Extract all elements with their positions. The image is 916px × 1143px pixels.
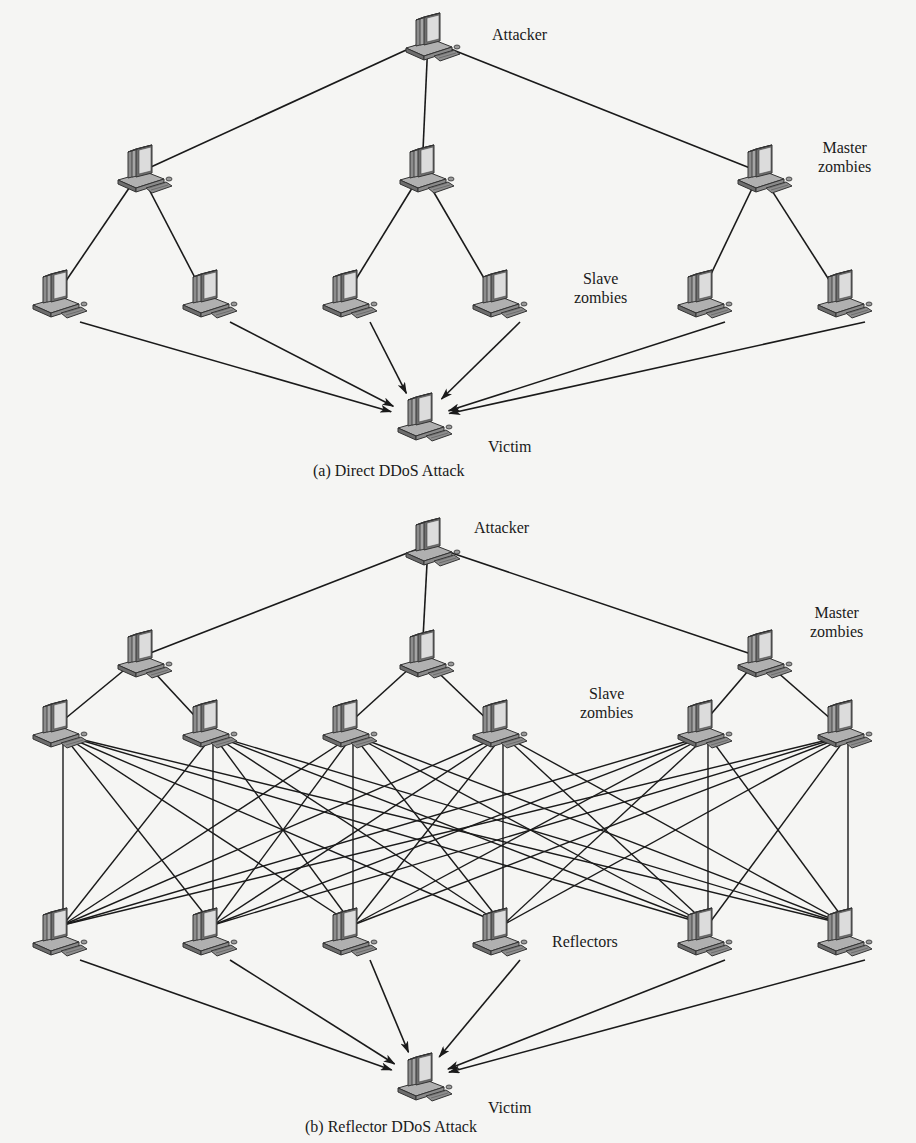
label-attacker-b: Attacker xyxy=(474,518,529,537)
reflector-computer-icon xyxy=(323,908,377,956)
reflected-traffic-arrow xyxy=(80,960,392,1070)
caption-reflector-ddos: (b) Reflector DDoS Attack xyxy=(305,1118,477,1136)
slave-zombie-computer-icon xyxy=(33,270,87,318)
label-master-zombies-b: Master zombies xyxy=(810,603,863,641)
slave-zombie-computer-icon xyxy=(678,270,732,318)
attack-traffic-arrow xyxy=(441,322,520,399)
reflected-traffic-arrow xyxy=(449,960,865,1072)
slave-zombie-computer-icon xyxy=(678,700,732,748)
slave-zombie-computer-icon xyxy=(473,270,527,318)
caption-direct-ddos: (a) Direct DDoS Attack xyxy=(313,462,465,480)
label-victim-b: Victim xyxy=(488,1098,531,1117)
slave-zombie-computer-icon xyxy=(323,270,377,318)
master-zombie-computer-icon xyxy=(118,145,172,193)
label-attacker-a: Attacker xyxy=(492,25,547,44)
reflector-computer-icon xyxy=(678,908,732,956)
reflected-traffic-arrow xyxy=(439,960,520,1057)
master-zombie-computer-icon xyxy=(118,630,172,678)
master-zombie-computer-icon xyxy=(738,630,792,678)
slave-zombie-computer-icon xyxy=(183,700,237,748)
label-reflectors-b: Reflectors xyxy=(552,932,618,951)
reflected-traffic-arrow xyxy=(230,960,395,1064)
computer-nodes xyxy=(33,13,872,1101)
reflected-traffic-arrow xyxy=(448,960,725,1069)
ddos-figure: Attacker Master zombies Slave zombies Vi… xyxy=(0,0,916,1143)
attack-traffic-arrow xyxy=(370,322,406,393)
master-zombie-computer-icon xyxy=(400,630,454,678)
attacker-to-master-line xyxy=(140,545,428,657)
attacker-to-master-line xyxy=(428,40,760,172)
slave-zombie-computer-icon xyxy=(818,270,872,318)
victim-computer-icon xyxy=(398,1053,452,1101)
reflected-traffic-arrow xyxy=(370,960,408,1052)
attack-traffic-arrow xyxy=(80,322,391,412)
attacker-to-master-line xyxy=(140,40,428,172)
victim-computer-icon xyxy=(398,393,452,441)
slave-zombie-computer-icon xyxy=(818,700,872,748)
slave-zombie-computer-icon xyxy=(473,700,527,748)
label-victim-a: Victim xyxy=(488,437,531,456)
attacker-to-master-line xyxy=(428,545,760,657)
label-slave-zombies-a: Slave zombies xyxy=(574,269,627,307)
slave-zombie-computer-icon xyxy=(323,700,377,748)
attacker-computer-icon xyxy=(406,518,460,566)
slave-zombie-computer-icon xyxy=(183,270,237,318)
attacker-computer-icon xyxy=(406,13,460,61)
reflector-computer-icon xyxy=(818,908,872,956)
master-to-slave-line xyxy=(55,172,140,297)
master-zombie-computer-icon xyxy=(738,145,792,193)
label-slave-zombies-b: Slave zombies xyxy=(580,684,633,722)
ddos-diagram-canvas xyxy=(0,0,916,1143)
attack-traffic-arrow xyxy=(449,322,725,411)
attack-traffic-arrow xyxy=(449,322,865,414)
label-master-zombies-a: Master zombies xyxy=(818,138,871,176)
master-zombie-computer-icon xyxy=(400,145,454,193)
connection-lines xyxy=(55,40,865,1072)
attack-traffic-arrow xyxy=(230,322,393,406)
